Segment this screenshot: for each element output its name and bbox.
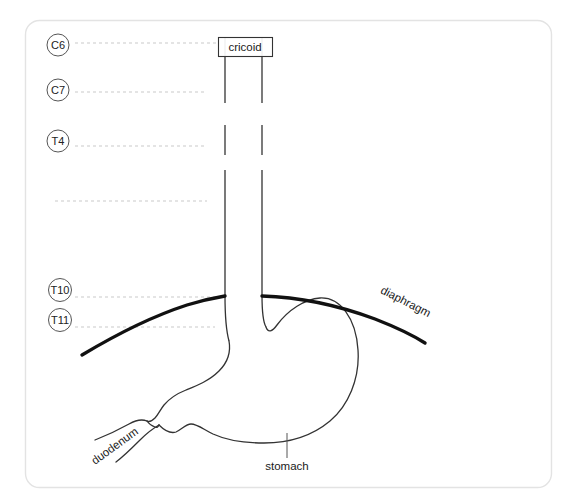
level-marker-t4: T4 bbox=[47, 130, 69, 152]
stomach-label: stomach bbox=[265, 460, 308, 472]
level-marker-c7: C7 bbox=[47, 79, 69, 101]
level-label-t10: T10 bbox=[51, 284, 70, 296]
cricoid-label: cricoid bbox=[228, 41, 261, 53]
figure-card bbox=[26, 21, 552, 488]
level-label-t4: T4 bbox=[52, 135, 65, 147]
level-marker-c6: C6 bbox=[47, 34, 69, 56]
level-marker-t11: T11 bbox=[49, 309, 72, 332]
level-label-c7: C7 bbox=[51, 84, 65, 96]
level-marker-t10: T10 bbox=[49, 279, 72, 302]
level-label-c6: C6 bbox=[51, 39, 65, 51]
cricoid-annotation: cricoid bbox=[219, 38, 273, 57]
esophagus-diagram-canvas: C6 C7 T4 T10 T11 bbox=[0, 0, 574, 504]
level-label-t11: T11 bbox=[51, 314, 69, 326]
anatomy-figure: C6 C7 T4 T10 T11 bbox=[0, 0, 574, 504]
